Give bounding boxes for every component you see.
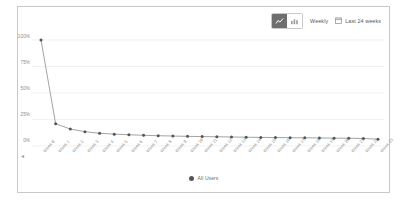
y-tick-label-75: 75% <box>12 60 30 65</box>
line-chart-icon[interactable] <box>272 14 287 28</box>
series-line <box>41 40 378 139</box>
legend-marker-icon <box>189 176 194 181</box>
bar-chart-icon[interactable] <box>287 14 302 28</box>
y-tick-label-100: 100% <box>12 34 30 39</box>
chart-legend[interactable]: All Users <box>18 175 389 181</box>
gridlines <box>32 40 384 146</box>
granularity-label: Weekly <box>310 18 328 24</box>
date-range-selector[interactable]: Last 24 weeks <box>335 17 381 24</box>
series-points <box>40 39 380 141</box>
chart-toolbar: Weekly Last 24 weeks <box>271 13 381 28</box>
granularity-selector[interactable]: Weekly <box>310 18 328 24</box>
x-axis-labels: Week 0Week 1Week 2Week 3Week 4Week 5Week… <box>32 150 388 176</box>
axis-origin-marker: ◂ <box>21 153 24 159</box>
chart-type-toggle-group[interactable] <box>271 13 303 29</box>
calendar-icon <box>335 17 342 24</box>
date-range-label: Last 24 weeks <box>345 18 381 24</box>
y-tick-label-50: 50% <box>12 86 30 91</box>
legend-label: All Users <box>198 175 219 181</box>
y-tick-label-0: 0% <box>12 138 30 143</box>
plot-area <box>32 37 384 149</box>
y-tick-label-25: 25% <box>12 112 30 117</box>
retention-chart-card: Weekly Last 24 weeks 100% 75% 50% 25% 0% <box>17 6 390 193</box>
